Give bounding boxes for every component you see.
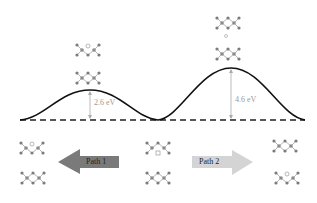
molecule-right-top [272,139,297,152]
molecule-right-bottom [274,171,299,184]
energy-diagram [0,0,317,203]
barrier-2-label: 4.6 eV [235,95,256,104]
molecule-middle-bottom [145,171,170,184]
path-1-label: Path 1 [86,157,106,166]
molecule-middle-top [145,141,170,155]
barrier-1-arrow [88,91,92,119]
molecule-ts1-top [75,43,100,56]
energy-curve [20,68,305,120]
path-2-label: Path 2 [199,157,219,166]
barrier-1-label: 2.6 eV [94,98,115,107]
molecule-left-top [19,141,44,154]
molecule-left-bottom [20,171,45,184]
barrier-2-arrow [229,69,233,119]
molecule-ts2-top [215,16,240,29]
molecule-ts2-bottom [215,47,240,60]
vacancy-ts2 [225,35,228,38]
molecule-ts1-bottom [75,71,100,84]
